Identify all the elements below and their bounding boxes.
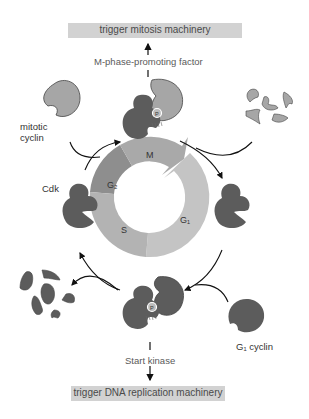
g1-cyclin-shape xyxy=(228,299,264,332)
cell-cycle-diagram: M G₁ S G₂ P xyxy=(0,0,309,419)
mitotic-cyclin-shape xyxy=(44,80,80,116)
degraded-mitotic-cyclin-fragments xyxy=(246,89,293,124)
svg-text:P: P xyxy=(155,111,159,117)
cdk-shape-right xyxy=(215,184,250,228)
degraded-g1-cyclin-fragments xyxy=(20,270,75,318)
cell-cycle-ring: M G₁ S G₂ xyxy=(90,137,210,257)
svg-text:P: P xyxy=(150,305,154,311)
mpf-complex: P xyxy=(123,79,183,139)
phase-g2-label: G₂ xyxy=(107,180,118,190)
phase-s-label: S xyxy=(121,225,127,235)
phase-m-label: M xyxy=(146,150,154,160)
phase-g1-label: G₁ xyxy=(180,215,190,225)
start-kinase-complex: P xyxy=(123,277,184,329)
